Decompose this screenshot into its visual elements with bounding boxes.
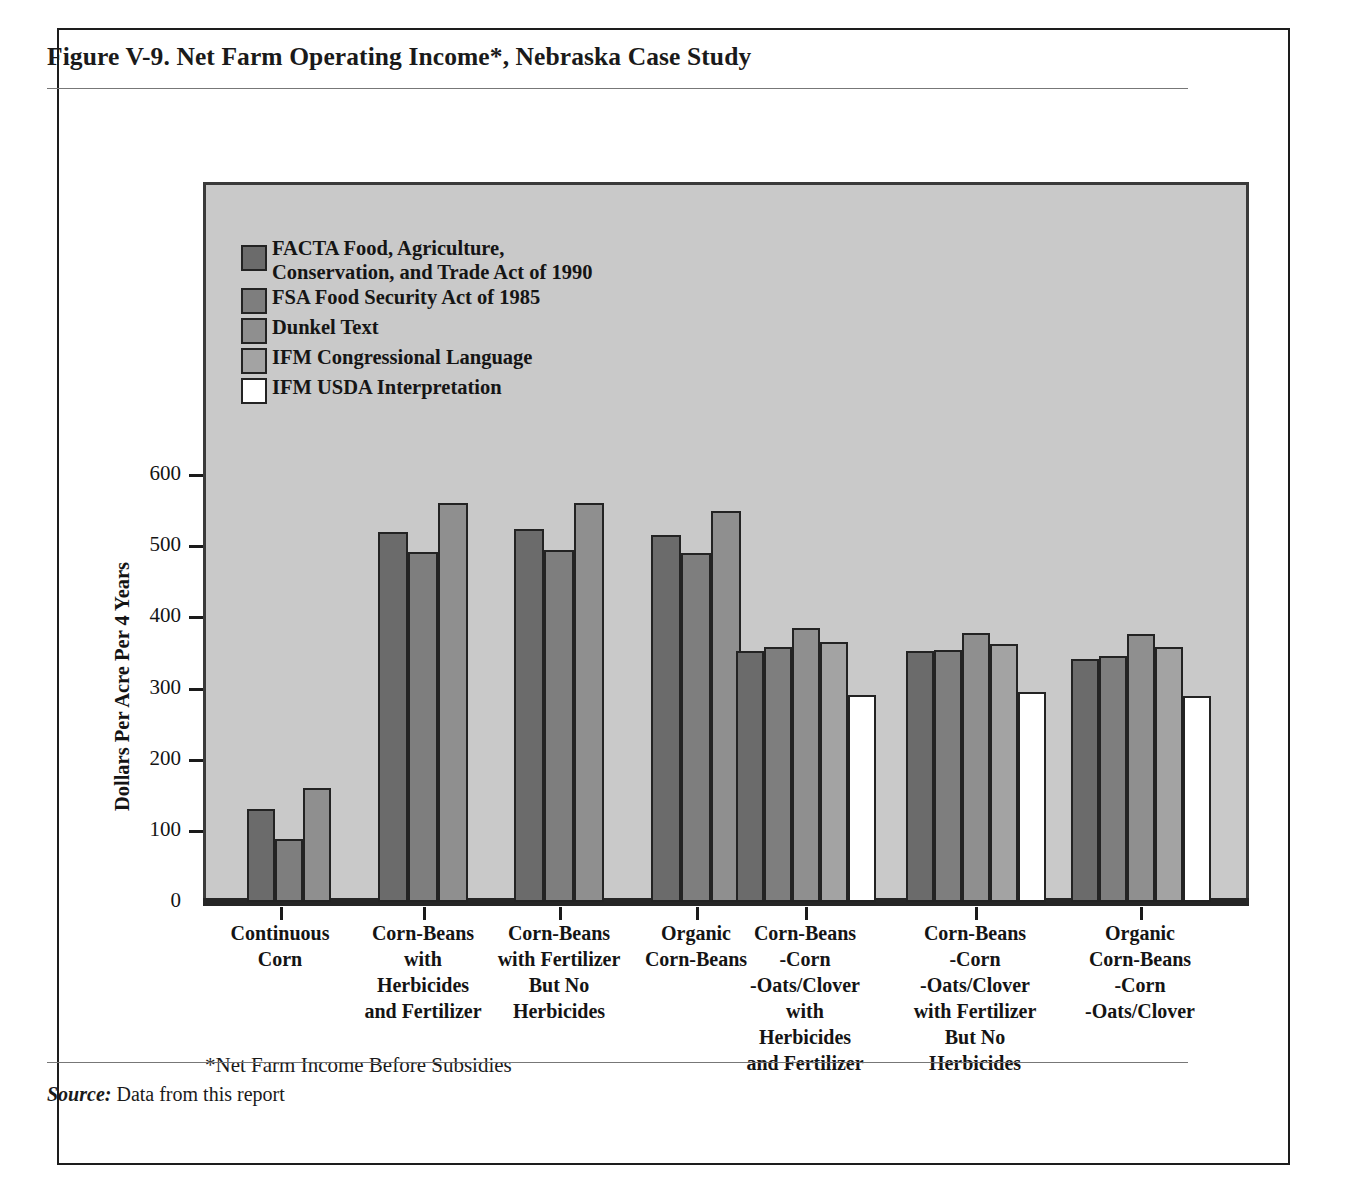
chart-legend: FACTA Food, Agriculture, Conservation, a… [241,236,671,405]
x-axis-tick [975,907,978,920]
x-axis-tick [280,907,283,920]
x-axis-label-line: -Corn [1047,972,1233,998]
legend-item: IFM Congressional Language [241,345,671,374]
bar [1071,659,1099,902]
bar [764,647,792,902]
y-axis-tick [189,545,203,548]
x-axis-label-line: -Oats/Clover [1047,998,1233,1024]
x-axis-tick [1140,907,1143,920]
y-axis-label: 100 [109,817,181,842]
legend-item: FSA Food Security Act of 1985 [241,285,671,314]
legend-item: IFM USDA Interpretation [241,375,671,404]
x-axis-label-line: But No [466,972,652,998]
y-axis-label: 300 [109,675,181,700]
bar [247,809,275,902]
legend-swatch-icon [241,288,267,314]
bar [1183,696,1211,902]
x-axis-label-line: Corn-Beans [712,920,898,946]
y-axis-tick [189,616,203,619]
y-axis-label: 600 [109,461,181,486]
x-axis-label-line: Herbicides [712,1024,898,1050]
legend-swatch-icon [241,378,267,404]
legend-item: Dunkel Text [241,315,671,344]
legend-swatch-icon [241,318,267,344]
bar [1127,634,1155,902]
bar [651,535,681,902]
x-axis-label-line: with Fertilizer [882,998,1068,1024]
x-axis-label-line: with [712,998,898,1024]
source-text: Data from this report [111,1083,284,1105]
y-axis-label: 500 [109,532,181,557]
y-axis-label: 400 [109,603,181,628]
legend-item-label: Dunkel Text [272,315,379,339]
x-axis-tick [805,907,808,920]
x-axis-label-line: and Fertilizer [712,1050,898,1076]
x-axis-label: Corn-Beans-Corn-Oats/Cloverwith Fertiliz… [882,920,1068,1076]
source-line: Source: Data from this report [47,1083,285,1106]
x-axis-label: Corn-Beans-Corn-Oats/CloverwithHerbicide… [712,920,898,1076]
bar [1018,692,1046,902]
x-axis-label-line: Corn-Beans [882,920,1068,946]
bar [681,553,711,902]
source-label: Source: [47,1083,111,1105]
x-axis-label-line: -Oats/Clover [882,972,1068,998]
bar [990,644,1018,902]
x-axis-tick [559,907,562,920]
x-axis-label-line: -Corn [712,946,898,972]
x-axis-label-line: Organic [1047,920,1233,946]
x-axis-label-line: -Oats/Clover [712,972,898,998]
x-axis-label-line: Herbicides [466,998,652,1024]
y-axis-tick [189,759,203,762]
bar [1099,656,1127,902]
legend-item-label: FACTA Food, Agriculture, Conservation, a… [272,236,592,284]
x-axis-tick [696,907,699,920]
bar [275,839,303,902]
bar [438,503,468,902]
legend-item-label: FSA Food Security Act of 1985 [272,285,540,309]
x-axis-label-line: -Corn [882,946,1068,972]
legend-item: FACTA Food, Agriculture, Conservation, a… [241,236,671,284]
y-axis-tick [189,474,203,477]
bar [792,628,820,902]
bar [514,529,544,902]
legend-item-label: IFM Congressional Language [272,345,532,369]
page-title: Figure V-9. Net Farm Operating Income*, … [47,42,751,72]
bar [820,642,848,902]
x-axis-label-line: But No [882,1024,1068,1050]
bar [544,550,574,902]
legend-item-label: IFM USDA Interpretation [272,375,502,399]
chart-footnote: *Net Farm Income Before Subsidies [205,1053,512,1078]
title-divider [47,88,1188,89]
y-axis-tick [189,830,203,833]
y-axis-label: 200 [109,746,181,771]
bar [736,651,764,902]
legend-swatch-icon [241,245,267,271]
source-divider [47,1062,1188,1063]
bar [574,503,604,902]
bar [962,633,990,902]
y-axis-tick [189,688,203,691]
x-axis-label-line: Corn-Beans [1047,946,1233,972]
bar [1155,647,1183,902]
bar [378,532,408,902]
legend-swatch-icon [241,348,267,374]
x-axis-label-line: Herbicides [882,1050,1068,1076]
y-axis-label: 0 [109,888,181,913]
bar [408,552,438,902]
bar [303,788,331,902]
bar [906,651,934,902]
x-axis-label: OrganicCorn-Beans-Corn-Oats/Clover [1047,920,1233,1024]
bar [848,695,876,902]
bar [934,650,962,902]
x-axis-tick [423,907,426,920]
